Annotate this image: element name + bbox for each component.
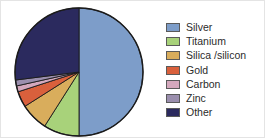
legend-swatch-silica-silicon <box>166 51 180 60</box>
legend-swatch-zinc <box>166 94 180 103</box>
legend-swatch-titanium <box>166 37 180 46</box>
legend-label-carbon: Carbon <box>186 79 220 90</box>
legend-item-gold[interactable]: Gold <box>166 63 264 77</box>
legend-item-other[interactable]: Other <box>166 106 264 120</box>
legend-item-silver[interactable]: Silver <box>166 20 264 34</box>
pie-slice[interactable] <box>15 8 79 80</box>
legend-item-titanium[interactable]: Titanium <box>166 34 264 48</box>
legend-item-carbon[interactable]: Carbon <box>166 77 264 91</box>
pie-slice[interactable] <box>79 8 143 136</box>
pie-chart-plot-area <box>13 6 145 138</box>
legend-label-gold: Gold <box>186 65 208 76</box>
legend-swatch-carbon <box>166 80 180 89</box>
legend-label-silica-silicon: Silica /silicon <box>186 50 246 61</box>
legend-swatch-silver <box>166 23 180 32</box>
legend-item-silica-silicon[interactable]: Silica /silicon <box>166 49 264 63</box>
legend-swatch-gold <box>166 66 180 75</box>
legend-label-silver: Silver <box>186 22 212 33</box>
pie-chart-svg <box>13 6 145 138</box>
chart-legend: Silver Titanium Silica /silicon Gold Car… <box>166 20 264 120</box>
legend-label-zinc: Zinc <box>186 93 206 104</box>
legend-item-zinc[interactable]: Zinc <box>166 91 264 105</box>
legend-swatch-other <box>166 108 180 117</box>
pie-chart-figure: Silver Titanium Silica /silicon Gold Car… <box>0 0 265 138</box>
legend-label-titanium: Titanium <box>186 36 226 47</box>
legend-label-other: Other <box>186 107 212 118</box>
